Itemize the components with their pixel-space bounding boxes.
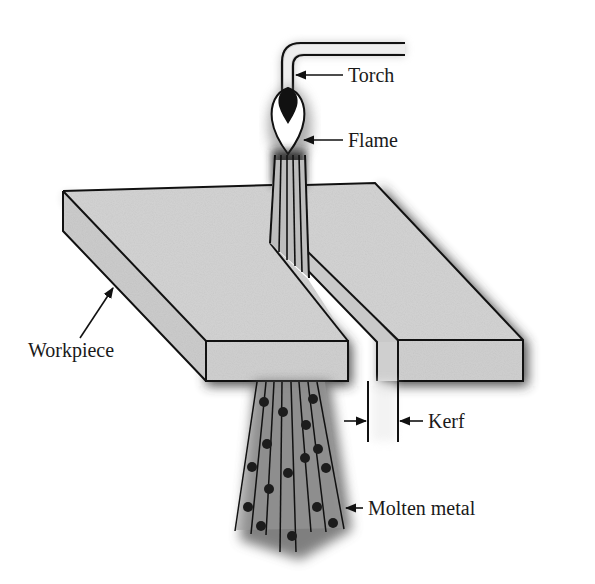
workpiece-arrow: [80, 288, 113, 338]
torch-label: Torch: [348, 64, 394, 86]
molten-metal-label: Molten metal: [368, 497, 476, 519]
workpiece-label: Workpiece: [28, 339, 114, 362]
kerf-label: Kerf: [428, 410, 465, 432]
kerf-dimension: [344, 381, 423, 442]
flame-label: Flame: [348, 129, 398, 151]
molten-metal-stream: [235, 382, 352, 560]
flame-cutting-diagram: Torch Flame Workpiece Kerf Molten metal: [0, 0, 595, 584]
